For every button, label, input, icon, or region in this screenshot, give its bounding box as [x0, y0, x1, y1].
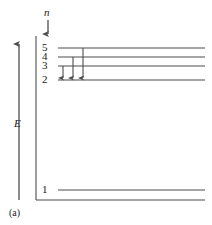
- transition-arrows: [63, 48, 83, 78]
- quantum-number-axis-label: n: [44, 7, 50, 18]
- energy-level-lines: [58, 48, 205, 190]
- energy-axis-label: E: [14, 118, 21, 129]
- diagram-canvas: [0, 0, 212, 225]
- energy-level-diagram: n E 5 4 3 2 1 (a): [0, 0, 212, 225]
- panel-caption: (a): [9, 208, 20, 218]
- level-label-2: 2: [42, 74, 48, 85]
- level-label-1: 1: [42, 184, 48, 195]
- level-label-3: 3: [42, 60, 48, 71]
- axis-frame: [36, 36, 205, 200]
